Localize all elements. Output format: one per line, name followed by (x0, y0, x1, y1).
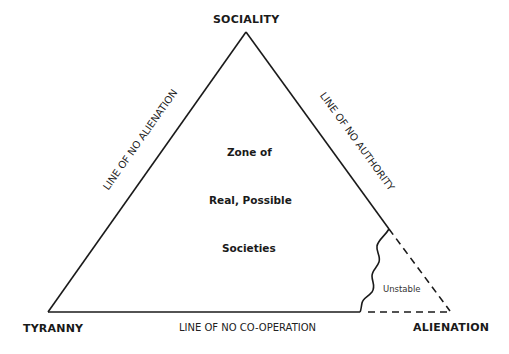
zone-label-line-3: Societies (222, 242, 276, 254)
corner-label-tyranny: TYRANNY (23, 322, 83, 335)
triangle-diagram (0, 0, 509, 354)
unstable-right-dashed-edge (389, 229, 450, 311)
zone-label-line-1: Zone of (227, 146, 272, 158)
unstable-wavy-boundary (360, 229, 389, 312)
line-of-no-alienation (48, 32, 246, 312)
corner-label-alienation: ALIENATION (413, 321, 489, 334)
edge-label-no-co-operation: LINE OF NO CO-OPERATION (179, 322, 316, 333)
corner-label-sociality: SOCIALITY (213, 13, 279, 26)
unstable-label: Unstable (383, 284, 421, 294)
zone-label-line-2: Real, Possible (209, 194, 292, 206)
